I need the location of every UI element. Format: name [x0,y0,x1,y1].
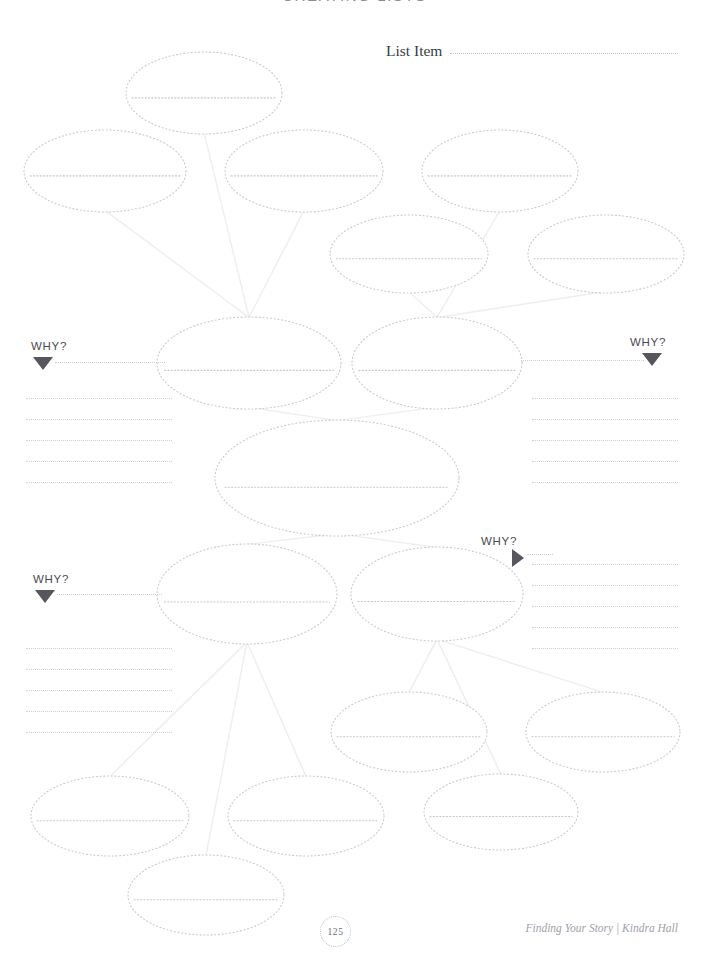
write-line[interactable] [532,648,678,649]
connector-line [337,534,437,548]
write-line[interactable] [532,482,678,483]
bubble[interactable] [228,776,384,856]
bubble-outline[interactable] [528,215,684,293]
page-number: 125 [327,927,343,937]
write-line[interactable] [26,461,172,462]
write-line[interactable] [532,627,678,628]
bubble-outline[interactable] [157,317,341,409]
notes-block-bottom-right[interactable] [532,564,678,649]
bubble-outline[interactable] [225,130,383,212]
write-line[interactable] [26,669,172,670]
bubble[interactable] [157,544,337,644]
list-item-label: List Item [386,42,442,60]
why-leader-line-top-left [55,362,165,363]
bubble[interactable] [126,52,282,134]
bubble[interactable] [526,692,680,772]
bubble-layer [24,52,684,935]
write-line[interactable] [26,648,172,649]
connector-line [206,642,247,855]
notes-block-top-right[interactable] [532,398,678,483]
bubble-outline[interactable] [24,130,186,212]
bubble-outline[interactable] [422,130,578,212]
bubble-outline[interactable] [128,855,284,935]
why-leader-line-mid-right [527,554,553,555]
bubble[interactable] [225,130,383,212]
bubble[interactable] [330,215,488,293]
page-number-badge: 125 [320,916,351,947]
write-line[interactable] [532,461,678,462]
bubble[interactable] [331,692,487,772]
why-label: WHY? [630,337,666,349]
connector-line [437,210,500,317]
list-item-field[interactable]: List Item [386,42,678,64]
page-title: CREATING LISTS [0,0,709,4]
connector-line [409,639,437,692]
triangle-down-icon [642,353,662,366]
why-marker-top-right: WHY? [630,337,666,366]
bubble[interactable] [128,855,284,935]
connector-line [247,642,306,776]
write-line[interactable] [532,440,678,441]
connector-line [247,534,337,545]
footer-credit: Finding Your Story | Kindra Hall [525,922,678,934]
write-line[interactable] [532,585,678,586]
bubble[interactable] [424,774,578,850]
notes-block-bottom-left[interactable] [26,648,172,733]
notes-block-top-left[interactable] [26,398,172,483]
connector-layer [105,132,606,855]
write-line[interactable] [532,419,678,420]
write-line[interactable] [26,690,172,691]
why-marker-bottom-left: WHY? [33,574,69,603]
why-label: WHY? [31,341,67,353]
bubble-outline[interactable] [228,776,384,856]
list-item-write-line[interactable] [450,52,678,54]
bubble-outline[interactable] [330,215,488,293]
why-leader-line-bottom-left [57,594,162,595]
bubble[interactable] [528,215,684,293]
connector-line [249,210,304,317]
write-line[interactable] [532,398,678,399]
bubble-outline[interactable] [157,544,337,644]
bubble-outline[interactable] [126,52,282,134]
triangle-down-icon [35,590,55,603]
bubble[interactable] [215,420,459,536]
triangle-down-icon [33,357,53,370]
bubble-outline[interactable] [526,692,680,772]
bubble-outline[interactable] [424,774,578,850]
connector-line [437,639,501,774]
bubble[interactable] [157,317,341,409]
worksheet-page: CREATING LISTS List Item WHY? WHY? WHY? … [0,0,709,964]
write-line[interactable] [532,606,678,607]
why-marker-top-left: WHY? [31,341,67,370]
triangle-right-icon [512,549,524,567]
bubble-outline[interactable] [31,776,189,856]
bubble-outline[interactable] [215,420,459,536]
connector-line [204,132,249,317]
write-line[interactable] [26,711,172,712]
write-line[interactable] [532,564,678,565]
write-line[interactable] [26,732,172,733]
write-line[interactable] [26,440,172,441]
bubble-outline[interactable] [331,692,487,772]
connector-line [105,210,249,317]
connector-line [409,291,437,317]
write-line[interactable] [26,482,172,483]
why-marker-mid-right: WHY? [481,536,524,567]
why-label: WHY? [33,574,69,586]
bubble-outline[interactable] [352,317,522,409]
write-line[interactable] [26,419,172,420]
connector-line [249,407,337,420]
bubble[interactable] [31,776,189,856]
connector-line [337,407,437,420]
write-line[interactable] [26,398,172,399]
why-label: WHY? [481,536,524,548]
bubble[interactable] [422,130,578,212]
bubble[interactable] [352,317,522,409]
connector-line [437,291,606,317]
why-leader-line-top-right [521,360,644,361]
bubble[interactable] [24,130,186,212]
